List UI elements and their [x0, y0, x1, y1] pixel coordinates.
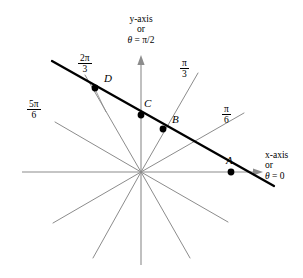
y-axis-label: y-axis or θ = π/2	[110, 14, 172, 45]
point-marker-group	[92, 85, 235, 176]
point-marker-c	[138, 112, 145, 119]
x-axis-label: x-axis or θ = 0	[265, 150, 303, 181]
ray-11pi-over-6	[141, 172, 228, 222]
fraction-pi-over-6: π 6	[222, 104, 231, 126]
fraction-numerator: π	[222, 104, 231, 115]
x-axis-theta-value: 0	[280, 171, 285, 181]
ray-pi-over-3	[141, 73, 198, 172]
point-marker-a	[228, 169, 235, 176]
main-line	[52, 61, 274, 186]
ray-label-2pi-over-3: 2π 3	[78, 53, 92, 76]
y-axis-theta-value: π/2	[142, 35, 154, 45]
point-label-d: D	[104, 73, 112, 85]
fraction-denominator: 6	[27, 110, 41, 120]
fraction-5pi-over-6: 5π 6	[27, 99, 41, 121]
y-axis-label-line3: θ = π/2	[110, 35, 172, 45]
ray-4pi-over-3	[93, 172, 141, 258]
fraction-numerator: 2π	[78, 53, 92, 64]
fraction-denominator: 3	[180, 69, 189, 79]
y-axis-label-line1: y-axis	[110, 14, 172, 24]
ray-label-pi-over-3: π 3	[180, 58, 189, 81]
ray-label-pi-over-6: π 6	[222, 104, 231, 127]
fraction-2pi-over-3: 2π 3	[78, 53, 92, 75]
y-axis-equals: =	[132, 35, 142, 45]
x-axis-label-line2: or	[265, 160, 303, 170]
point-marker-d	[92, 85, 99, 92]
fraction-numerator: 5π	[27, 99, 41, 110]
leader-line-d	[96, 91, 106, 112]
point-label-a: A	[226, 155, 233, 167]
y-axis-arrowhead	[137, 55, 144, 65]
point-label-c: C	[144, 98, 151, 110]
point-label-b: B	[172, 114, 179, 126]
fraction-pi-over-3: π 3	[180, 58, 189, 80]
fraction-denominator: 6	[222, 115, 231, 125]
point-marker-b	[160, 126, 167, 133]
x-axis-label-line1: x-axis	[265, 150, 303, 160]
polar-line-figure: y-axis or θ = π/2 x-axis or θ = 0 2π 3 5…	[0, 0, 303, 278]
fraction-denominator: 3	[78, 64, 92, 74]
y-axis-label-line2: or	[110, 24, 172, 34]
x-axis-label-line3: θ = 0	[265, 171, 303, 181]
fraction-numerator: π	[180, 58, 189, 69]
y-axis-group	[137, 55, 144, 265]
ray-label-5pi-over-6: 5π 6	[27, 99, 41, 122]
ray-7pi-over-6	[53, 172, 141, 223]
ray-5pi-over-3	[141, 172, 190, 258]
x-axis-equals: =	[270, 171, 280, 181]
ray-5pi-over-6	[55, 122, 141, 172]
